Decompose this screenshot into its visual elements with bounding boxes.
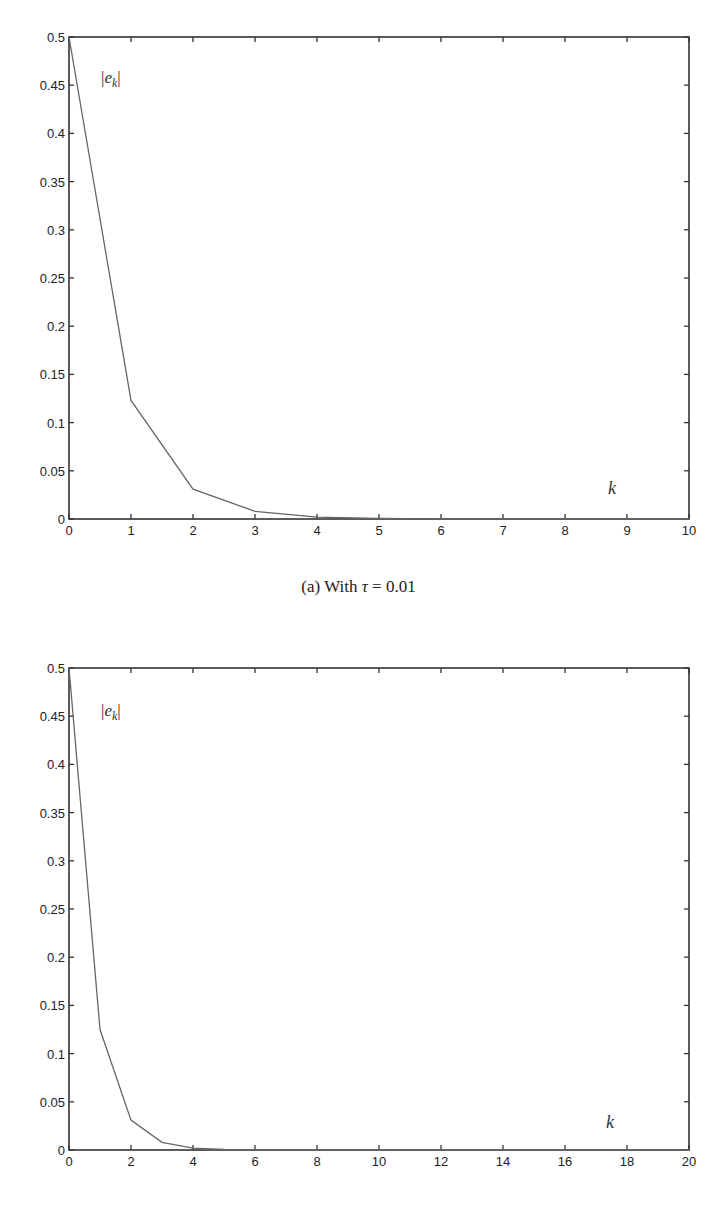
x-tick-label: 12	[434, 1154, 448, 1169]
y-tick-label: 0.1	[47, 1047, 65, 1062]
y-tick-label: 0.5	[47, 661, 65, 676]
y-tick-label: 0.25	[40, 902, 65, 917]
x-tick-label: 8	[313, 1154, 320, 1169]
x-tick-label: 10	[372, 1154, 386, 1169]
x-tick-label: 2	[127, 1154, 134, 1169]
x-tick-label: 14	[496, 1154, 510, 1169]
x-tick-label: 16	[558, 1154, 572, 1169]
x-tick-label: 0	[65, 1154, 72, 1169]
y-tick-label: 0.2	[47, 950, 65, 965]
x-tick-label: 6	[251, 1154, 258, 1169]
x-tick-label: 20	[682, 1154, 696, 1169]
series-line	[69, 668, 689, 1150]
y-tick-label: 0.15	[40, 998, 65, 1013]
y-tick-label: 0.35	[40, 806, 65, 821]
y-axis-label: |ek|	[101, 701, 121, 723]
y-tick-label: 0.3	[47, 854, 65, 869]
y-tick-label: 0.4	[47, 757, 65, 772]
x-tick-label: 4	[189, 1154, 196, 1169]
y-tick-label: 0.05	[40, 1095, 65, 1110]
y-tick-label: 0.45	[40, 709, 65, 724]
x-tick-label: 18	[620, 1154, 634, 1169]
x-axis-label: k	[606, 1112, 615, 1132]
plot-frame	[69, 668, 689, 1150]
y-tick-label: 0	[58, 1143, 65, 1158]
chart-b: 0246810121416182000.050.10.150.20.250.30…	[0, 0, 717, 1208]
